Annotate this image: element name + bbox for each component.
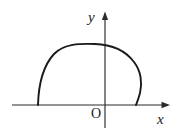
figure-canvas: y x O	[0, 0, 180, 130]
x-axis-label: x	[157, 112, 164, 127]
x-axis-arrowhead	[162, 102, 171, 108]
y-axis-group	[102, 12, 108, 129]
y-axis-label: y	[88, 10, 95, 25]
arc-curve	[38, 44, 141, 105]
origin-label: O	[91, 107, 101, 121]
y-axis-arrowhead	[102, 12, 108, 21]
